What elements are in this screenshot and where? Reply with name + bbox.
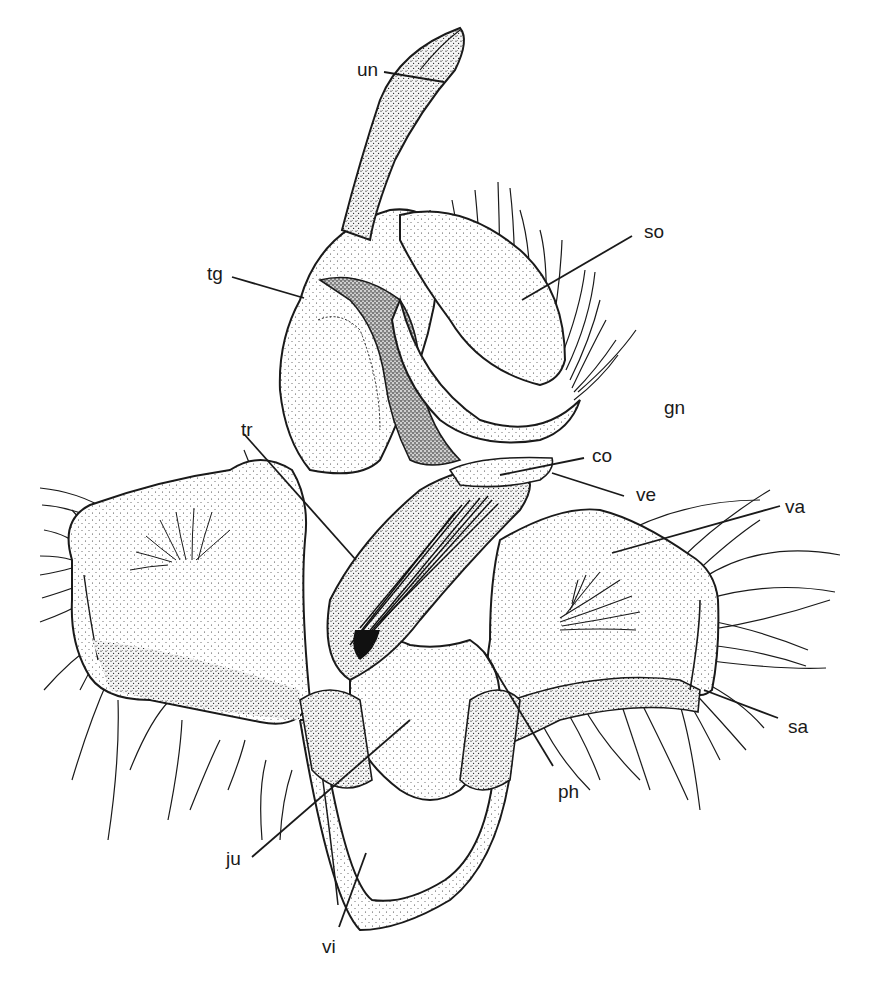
leader-line-tg: [232, 277, 304, 298]
costa-shape: [450, 458, 553, 487]
anatomical-drawing: [0, 0, 876, 987]
label-transtilla: tr: [241, 420, 253, 439]
label-uncus: un: [357, 60, 378, 79]
leader-line-ve: [552, 473, 624, 496]
label-phallus: ph: [558, 782, 579, 801]
label-sacculus: sa: [788, 717, 808, 736]
label-valva: va: [785, 497, 805, 516]
label-vinculum: vi: [322, 937, 336, 956]
label-juxta: ju: [226, 849, 241, 868]
leader-line-sa: [704, 690, 778, 718]
label-tegumen: tg: [207, 264, 223, 283]
label-costa: co: [592, 446, 612, 465]
leader-line-so: [522, 236, 632, 300]
label-vesica: ve: [636, 485, 656, 504]
label-socius: so: [644, 222, 664, 241]
genitalia-figure: un so tg gn tr co ve va sa ph ju vi: [0, 0, 876, 987]
label-gnathos: gn: [664, 398, 685, 417]
